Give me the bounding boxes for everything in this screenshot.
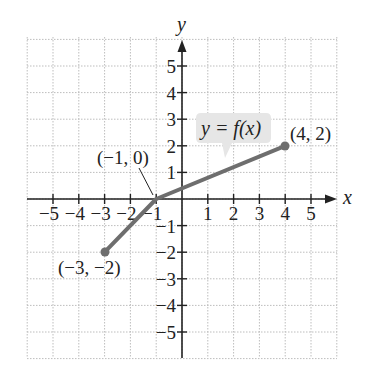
endpoint-right bbox=[281, 142, 290, 151]
x-tick-label: −3 bbox=[90, 203, 110, 224]
y-tick-label: −4 bbox=[156, 295, 177, 316]
y-tick-label: 1 bbox=[167, 162, 177, 183]
x-tick-label: 1 bbox=[203, 203, 213, 224]
point-label-neg1-0: (−1, 0) bbox=[97, 147, 149, 169]
y-axis-label: y bbox=[175, 13, 186, 36]
point-label-4-2: (4, 2) bbox=[290, 123, 331, 145]
y-tick-label: 3 bbox=[167, 109, 177, 130]
x-tick-label: −4 bbox=[65, 203, 86, 224]
y-tick-label: −3 bbox=[156, 269, 176, 290]
coordinate-plane: −5−4−3−2−11234554321−1−2−3−4−5 x y y = f… bbox=[0, 0, 371, 378]
x-tick-label: −5 bbox=[39, 203, 59, 224]
x-axis-arrow-icon bbox=[325, 195, 337, 204]
x-tick-label: 2 bbox=[229, 203, 239, 224]
y-axis-arrow-icon bbox=[178, 40, 187, 52]
y-tick-label: 2 bbox=[167, 136, 177, 157]
x-axis-label: x bbox=[342, 186, 352, 208]
y-tick-label: 4 bbox=[167, 83, 177, 104]
function-label: y = f(x) bbox=[199, 117, 261, 140]
y-tick-label: 5 bbox=[167, 56, 177, 77]
y-tick-label: −2 bbox=[156, 242, 176, 263]
endpoint-left bbox=[101, 248, 110, 257]
x-tick-label: 5 bbox=[306, 203, 316, 224]
y-tick-label: −1 bbox=[156, 216, 176, 237]
point-label-neg3-neg2: (−3, −2) bbox=[58, 257, 121, 279]
x-tick-label: 3 bbox=[255, 203, 265, 224]
y-tick-label: −5 bbox=[156, 322, 176, 343]
x-tick-label: 4 bbox=[280, 203, 290, 224]
